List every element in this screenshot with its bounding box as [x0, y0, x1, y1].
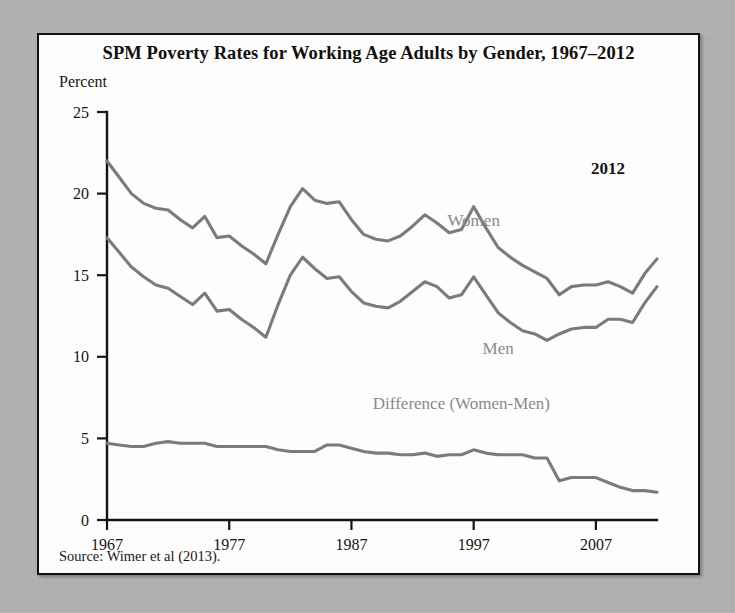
y-axis-ticks	[97, 112, 107, 520]
y-axis-tick-labels: 0510152025	[73, 104, 89, 529]
line-chart: 0510152025 19671977198719972007 WomenMen…	[39, 35, 702, 577]
x-tick-label: 2007	[580, 536, 612, 553]
annotation-end-year: 2012	[591, 159, 625, 178]
y-tick-label: 20	[73, 185, 89, 202]
y-tick-label: 15	[73, 267, 89, 284]
annotation-women: Women	[447, 211, 500, 230]
annotation-men: Men	[483, 339, 515, 358]
chart-series-lines	[107, 161, 657, 492]
source-note: Source: Wimer et al (2013).	[59, 548, 220, 565]
x-tick-label: 1997	[458, 536, 490, 553]
annotation-difference-women-men: Difference (Women-Men)	[373, 394, 550, 413]
figure-panel: SPM Poverty Rates for Working Age Adults…	[37, 33, 700, 575]
y-tick-label: 0	[81, 512, 89, 529]
x-tick-label: 1987	[335, 536, 367, 553]
series-line-difference-women-men	[107, 442, 657, 493]
series-line-women	[107, 161, 657, 295]
y-tick-label: 5	[81, 430, 89, 447]
x-axis-ticks	[107, 520, 596, 530]
y-tick-label: 10	[73, 348, 89, 365]
y-tick-label: 25	[73, 104, 89, 121]
chart-axes	[97, 112, 657, 530]
series-line-men	[107, 238, 657, 341]
